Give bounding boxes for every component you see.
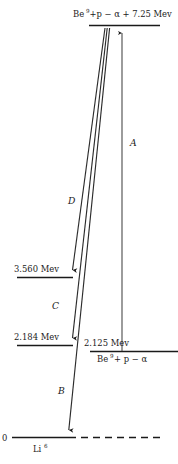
label-ground-superscript: 6: [44, 443, 48, 449]
transition-label-d: D: [67, 195, 76, 206]
transition-label-a: A: [129, 137, 137, 148]
transition-label-c: C: [52, 300, 59, 311]
transition-label-b: B: [57, 385, 65, 396]
energy-level-diagram: Be 9 +p − α + 7.25 Mev 3.560 Mev 2.184 M…: [0, 0, 178, 464]
label-top-channel-be: Be: [73, 9, 84, 19]
transition-arrow-b: [69, 28, 110, 430]
label-energy-2184: 2.184 Mev: [14, 332, 59, 342]
label-energy-ground: 0: [2, 433, 7, 443]
level-diagram-canvas: Be 9 +p − α + 7.25 Mev 3.560 Mev 2.184 M…: [0, 0, 178, 464]
label-top-channel-rest: +p − α + 7.25 Mev: [90, 9, 173, 19]
transition-arrow-c: [73, 28, 108, 338]
label-be9-channel-rest: + p − α: [114, 354, 147, 364]
label-be9-channel-be: Be: [97, 354, 108, 364]
label-ground-li: Li: [33, 444, 42, 454]
label-energy-3560: 3.560 Mev: [14, 264, 59, 274]
label-energy-2125: 2.125 Mev: [84, 338, 129, 348]
